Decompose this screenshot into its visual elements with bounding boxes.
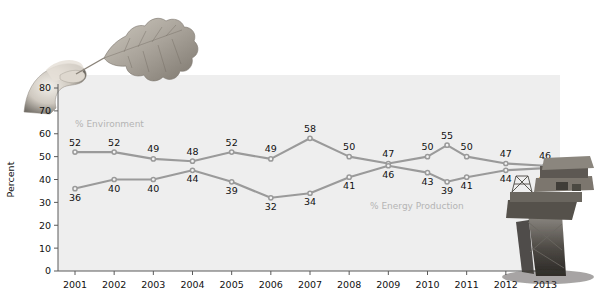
chart-container: 01020304050607080Percent2001200220032004… xyxy=(0,0,600,307)
rig-photo-layer xyxy=(0,0,600,307)
oil-rig-photo xyxy=(502,156,594,284)
